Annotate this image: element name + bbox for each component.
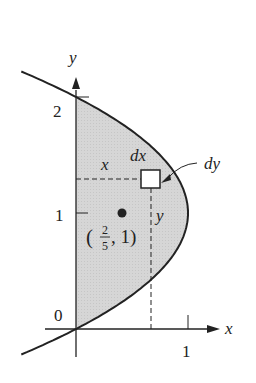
y-tick-label-2: 2 bbox=[53, 102, 62, 121]
centroid-rest: , 1) bbox=[111, 226, 136, 248]
x-axis-label: x bbox=[224, 319, 233, 338]
y-axis-arrow-icon bbox=[72, 77, 80, 89]
element-square bbox=[141, 170, 160, 188]
diagram: y x 2 1 0 1 dx dy x y ( 2 5 , 1) bbox=[0, 0, 256, 383]
centroid-dot bbox=[118, 209, 127, 218]
y-tick-label-1: 1 bbox=[55, 206, 64, 225]
x-axis-arrow-icon bbox=[207, 325, 220, 333]
element-x-label: x bbox=[100, 155, 109, 174]
y-axis-label: y bbox=[67, 48, 77, 67]
dx-label: dx bbox=[130, 146, 147, 165]
x-tick-label-1: 1 bbox=[182, 342, 191, 361]
element-y-label: y bbox=[154, 206, 164, 225]
centroid-open-paren: ( bbox=[86, 225, 93, 249]
dy-label: dy bbox=[204, 154, 221, 173]
centroid-denominator: 5 bbox=[102, 239, 108, 253]
centroid-numerator: 2 bbox=[102, 223, 108, 237]
origin-label: 0 bbox=[54, 306, 63, 325]
